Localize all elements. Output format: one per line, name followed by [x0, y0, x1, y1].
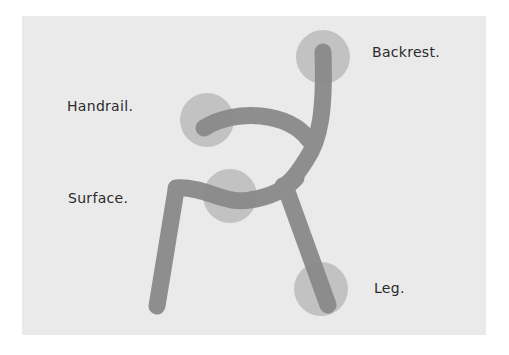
surface-label: Surface.: [68, 190, 128, 206]
handrail-label: Handrail.: [67, 98, 133, 114]
left-leg-stroke: [157, 190, 176, 306]
leg-label: Leg.: [374, 280, 405, 296]
backrest-label: Backrest.: [372, 44, 440, 60]
